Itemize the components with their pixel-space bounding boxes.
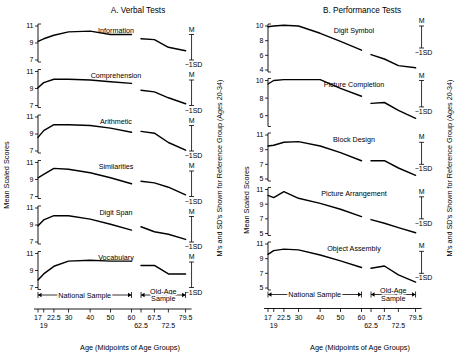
subtest-label: Object Assembly: [327, 244, 381, 253]
national-sample-label: National Sample: [58, 291, 111, 300]
x-tick-label: 50: [337, 314, 345, 321]
marker-sd-label: −1SD: [415, 49, 433, 56]
x-tick-label-lower: 72.5: [162, 322, 176, 329]
y-tick-label: 11: [26, 250, 33, 257]
x-tick-label: 30: [295, 314, 303, 321]
y-tick-label: 7: [30, 284, 34, 291]
y-tick-label: 11: [26, 68, 33, 75]
y-tick-label: 9: [260, 201, 264, 208]
figure-root: A. Verbal TestsB. Performance TestsMean …: [0, 0, 461, 354]
panel-b-title: B. Performance Tests: [323, 6, 401, 15]
curve-national-sample: [268, 142, 362, 161]
x-tick-label: 22.5: [47, 314, 61, 321]
y-tick-label: 11: [256, 131, 263, 138]
y-tick-label: 7: [30, 102, 34, 109]
x-tick-label-lower: 62.5: [364, 322, 378, 329]
marker-sd-label: −1SD: [185, 243, 203, 250]
x-tick-label: 79.5: [409, 314, 423, 321]
marker-mean-label: M: [419, 17, 425, 24]
y-axis-label-right-panel: Mean Scaled Scores: [242, 166, 251, 234]
y-tick-label: 7: [30, 147, 34, 154]
marker-mean-label: M: [189, 253, 195, 260]
y-tick-label: 6: [260, 112, 264, 119]
curve-old-age-sample: [371, 266, 416, 282]
y-tick-label: 11: [26, 113, 33, 120]
x-tick-label: 79.5: [179, 314, 193, 321]
bracket-arrow: [358, 292, 362, 296]
curve-old-age-sample: [141, 181, 186, 195]
x-tick-label: 40: [316, 314, 324, 321]
y-tick-label: 6: [260, 52, 264, 59]
marker-mean-label: M: [189, 26, 195, 33]
curve-old-age-sample: [371, 55, 416, 68]
y-tick-label: 7: [260, 215, 264, 222]
old-age-sample-label-2: Sample: [151, 294, 175, 303]
right-axis-label-b: M's and SD's Shown for Reference Group (…: [445, 80, 454, 257]
x-tick-label: 40: [86, 314, 94, 321]
marker-mean-label: M: [419, 72, 425, 79]
bracket-arrow: [38, 293, 42, 297]
x-tick-label-lower: 72.5: [392, 322, 406, 329]
y-tick-label: 9: [260, 146, 264, 153]
y-tick-label: 5: [260, 230, 264, 237]
bracket-arrow: [268, 292, 272, 296]
y-tick-label: 9: [30, 85, 34, 92]
y-tick-label: 8: [260, 95, 264, 102]
y-tick-label: 9: [30, 221, 34, 228]
x-axis-label-b: Age (Midpoints of Age Groups): [310, 343, 410, 352]
subtest-label: Similarities: [99, 162, 134, 171]
y-tick-label: 5: [260, 284, 264, 291]
curve-national-sample: [38, 216, 132, 230]
marker-mean-label: M: [189, 162, 195, 169]
y-tick-label: 11: [26, 204, 33, 211]
subtest-label: Picture Arrangement: [321, 189, 387, 198]
subtest-label: Digit Span: [99, 208, 132, 217]
right-axis-label-a: M's and SD's Shown for Reference Group (…: [215, 80, 224, 257]
y-tick-label: 9: [260, 255, 264, 262]
chart-canvas: A. Verbal TestsB. Performance TestsMean …: [0, 0, 461, 354]
marker-mean-label: M: [419, 242, 425, 249]
curve-old-age-sample: [371, 220, 416, 233]
x-tick-label: 50: [107, 314, 115, 321]
x-tick-label: 67.5: [378, 314, 392, 321]
y-tick-label: 7: [260, 270, 264, 277]
marker-sd-label: −1SD: [415, 274, 433, 281]
y-tick-label: 9: [30, 176, 34, 183]
y-tick-label: 11: [26, 22, 33, 29]
subtest-label: Block Design: [333, 135, 375, 144]
marker-mean-label: M: [189, 71, 195, 78]
y-tick-label: 11: [256, 240, 263, 247]
panel-a-title: A. Verbal Tests: [111, 6, 165, 15]
y-tick-label: 10: [256, 77, 264, 84]
curve-national-sample: [38, 260, 132, 280]
marker-mean-label: M: [189, 117, 195, 124]
y-tick-label: 11: [26, 159, 33, 166]
old-age-sample-label-2: Sample: [381, 294, 405, 303]
y-tick-label: 7: [30, 238, 34, 245]
marker-sd-label: −1SD: [415, 165, 433, 172]
curve-old-age-sample: [371, 161, 416, 176]
subtest-label: Information: [98, 26, 134, 35]
national-sample-label: National Sample: [288, 290, 341, 299]
curve-old-age-sample: [371, 103, 416, 119]
x-tick-label: 60: [358, 314, 366, 321]
bracket-arrow: [141, 293, 145, 297]
subtest-label: Comprehension: [91, 71, 142, 80]
x-tick-label: 22.5: [277, 314, 291, 321]
x-tick-label: 60: [128, 314, 136, 321]
marker-sd-label: −1SD: [185, 61, 203, 68]
y-tick-label: 9: [30, 267, 34, 274]
x-tick-label: 17: [264, 314, 272, 321]
bracket-arrow: [371, 292, 375, 296]
subtest-label: Vocabulary: [98, 253, 134, 262]
y-tick-label: 5: [260, 175, 264, 182]
marker-mean-label: M: [189, 208, 195, 215]
y-tick-label: 10: [256, 22, 264, 29]
y-tick-label: 7: [260, 161, 264, 168]
marker-mean-label: M: [419, 188, 425, 195]
y-tick-label: 9: [30, 130, 34, 137]
x-tick-label-lower: 19: [40, 322, 48, 329]
marker-sd-label: −1SD: [185, 289, 203, 296]
x-tick-label: 67.5: [148, 314, 162, 321]
x-tick-label-lower: 19: [270, 322, 278, 329]
